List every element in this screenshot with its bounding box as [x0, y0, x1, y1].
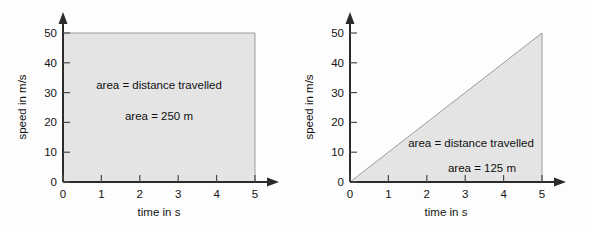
y-tick-label: 30 [44, 87, 57, 99]
x-tick-label: 0 [60, 188, 66, 200]
shaded-area-region [350, 33, 542, 182]
figure-sheet: 0 10 20 30 40 50 0 1 2 3 4 5 time in [0, 0, 590, 230]
x-axis-title: time in s [138, 206, 181, 218]
annotation-area-value: area = 250 m [125, 110, 193, 122]
y-tick-label: 30 [331, 87, 344, 99]
annotation-area-value: area = 125 m [448, 162, 516, 174]
chart-svg-uniform-acceleration: 0 10 20 30 40 50 0 1 2 3 4 5 time in [295, 0, 590, 230]
x-axis-title: time in s [425, 206, 468, 218]
x-tick-label: 2 [137, 188, 143, 200]
x-tick-label: 4 [500, 188, 507, 200]
y-tick-label: 10 [44, 146, 57, 158]
x-axis-arrow-icon [554, 178, 566, 187]
y-tick-label: 0 [338, 176, 344, 188]
y-tick-label: 50 [44, 27, 57, 39]
x-tick-label: 3 [175, 188, 181, 200]
x-tick-label: 1 [98, 188, 104, 200]
y-axis-title: speed in m/s [16, 74, 28, 139]
y-tick-label: 20 [44, 116, 57, 128]
shaded-area-region [63, 33, 255, 182]
annotation-area-meaning: area = distance travelled [408, 137, 534, 149]
y-tick-label: 40 [44, 57, 57, 69]
chart-panel-constant-speed: 0 10 20 30 40 50 0 1 2 3 4 5 time in [0, 0, 295, 230]
chart-panel-uniform-acceleration: 0 10 20 30 40 50 0 1 2 3 4 5 time in [295, 0, 590, 230]
chart-svg-constant-speed: 0 10 20 30 40 50 0 1 2 3 4 5 time in [0, 0, 295, 230]
x-tick-label: 1 [385, 188, 391, 200]
y-axis-arrow-icon [59, 12, 68, 24]
x-tick-label: 5 [539, 188, 545, 200]
x-tick-label: 4 [213, 188, 220, 200]
x-axis-arrow-icon [267, 178, 279, 187]
y-axis-arrow-icon [346, 12, 355, 24]
annotation-area-meaning: area = distance travelled [96, 79, 222, 91]
y-tick-label: 20 [331, 116, 344, 128]
y-tick-label: 0 [51, 176, 57, 188]
y-tick-label: 10 [331, 146, 344, 158]
x-tick-label: 3 [462, 188, 468, 200]
y-tick-label: 50 [331, 27, 344, 39]
x-tick-label: 0 [347, 188, 353, 200]
x-tick-label: 5 [252, 188, 258, 200]
y-axis-title: speed in m/s [303, 74, 315, 139]
x-tick-label: 2 [424, 188, 430, 200]
y-tick-marks [350, 33, 357, 182]
y-tick-label: 40 [331, 57, 344, 69]
